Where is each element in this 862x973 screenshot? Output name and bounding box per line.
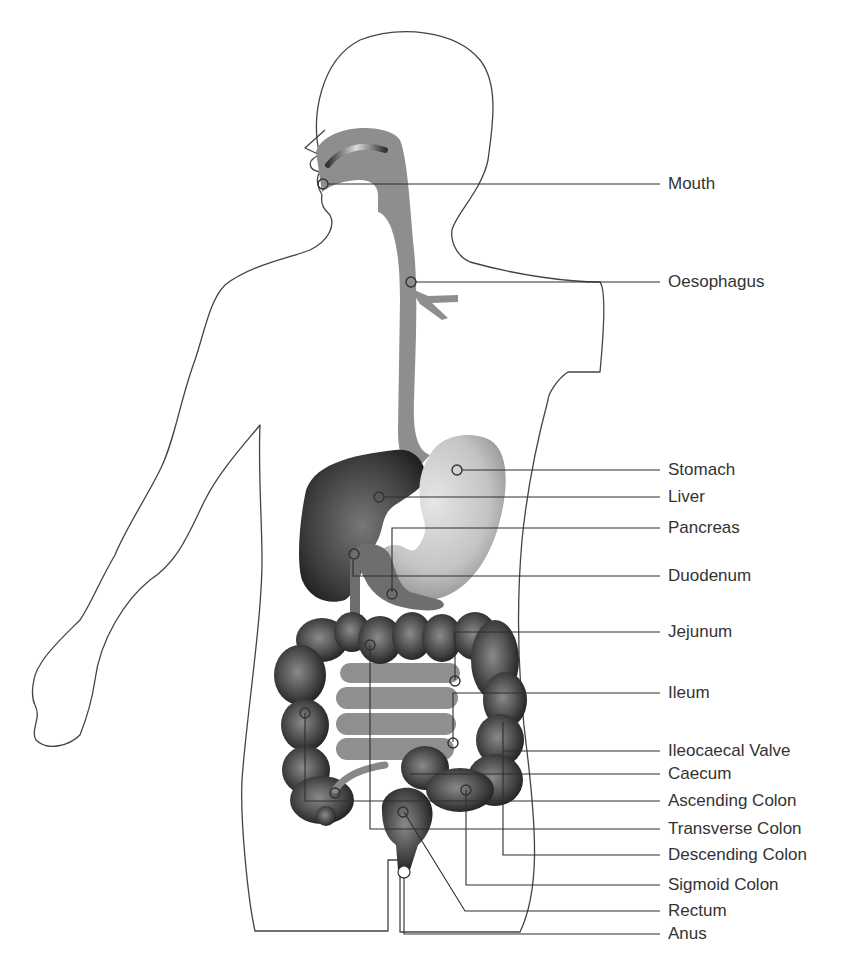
label-duodenum: Duodenum xyxy=(668,566,751,586)
upper-tract xyxy=(316,128,458,470)
small-intestine xyxy=(336,663,460,760)
label-transverse-colon: Transverse Colon xyxy=(668,819,802,839)
label-ileocaecal-valve: Ileocaecal Valve xyxy=(668,741,791,761)
anus-shape xyxy=(398,866,410,878)
label-ascending-colon: Ascending Colon xyxy=(668,791,797,811)
appendix-shape xyxy=(335,765,385,790)
label-ileum: Ileum xyxy=(668,683,710,703)
label-stomach: Stomach xyxy=(668,460,735,480)
label-jejunum: Jejunum xyxy=(668,622,732,642)
label-sigmoid-colon: Sigmoid Colon xyxy=(668,875,779,895)
label-oesophagus: Oesophagus xyxy=(668,272,764,292)
label-caecum: Caecum xyxy=(668,764,731,784)
label-mouth: Mouth xyxy=(668,174,715,194)
label-anus: Anus xyxy=(668,924,707,944)
label-descending-colon: Descending Colon xyxy=(668,845,807,865)
label-rectum: Rectum xyxy=(668,901,727,921)
label-liver: Liver xyxy=(668,487,705,507)
label-pancreas: Pancreas xyxy=(668,518,740,538)
